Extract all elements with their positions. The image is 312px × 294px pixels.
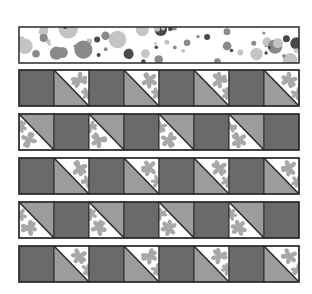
dark-square <box>54 114 89 150</box>
half-square-triangle <box>264 70 304 106</box>
half-square-triangle <box>194 246 234 282</box>
dark-square <box>229 70 264 106</box>
row-4 <box>15 202 299 238</box>
half-square-triangle <box>194 70 233 106</box>
half-square-triangle <box>194 158 234 194</box>
dark-square <box>229 246 264 282</box>
dark-square <box>19 246 54 282</box>
dark-square <box>54 202 89 238</box>
half-square-triangle <box>224 202 264 238</box>
half-square-triangle <box>15 202 54 238</box>
dark-square <box>124 114 159 150</box>
half-square-triangle <box>124 246 164 282</box>
dark-square <box>19 158 54 194</box>
half-square-triangle <box>84 114 124 150</box>
row-2 <box>14 114 299 150</box>
dark-square <box>124 202 159 238</box>
half-square-triangle <box>154 114 194 150</box>
polka-dot-border <box>17 19 302 68</box>
dark-square <box>89 70 124 106</box>
row-5 <box>19 246 303 282</box>
quilt-diagram <box>0 0 312 294</box>
row-1 <box>19 70 304 106</box>
half-square-triangle <box>54 70 94 106</box>
half-square-triangle <box>54 246 94 282</box>
dark-square <box>264 202 299 238</box>
half-square-triangle <box>124 70 164 106</box>
dark-square <box>89 246 124 282</box>
dark-square <box>159 246 194 282</box>
half-square-triangle <box>84 202 124 238</box>
dark-square <box>229 158 264 194</box>
dark-square <box>194 114 229 150</box>
half-square-triangle <box>264 158 304 194</box>
dark-square <box>19 70 54 106</box>
dark-square <box>89 158 124 194</box>
dark-square <box>194 202 229 238</box>
dark-square <box>159 70 194 106</box>
half-square-triangle <box>124 158 164 194</box>
dark-square <box>264 114 299 150</box>
row-3 <box>19 158 304 194</box>
half-square-triangle <box>14 114 54 150</box>
half-square-triangle <box>224 114 264 150</box>
half-square-triangle <box>154 202 194 238</box>
half-square-triangle <box>264 246 303 282</box>
half-square-triangle <box>54 158 94 194</box>
dark-square <box>159 158 194 194</box>
